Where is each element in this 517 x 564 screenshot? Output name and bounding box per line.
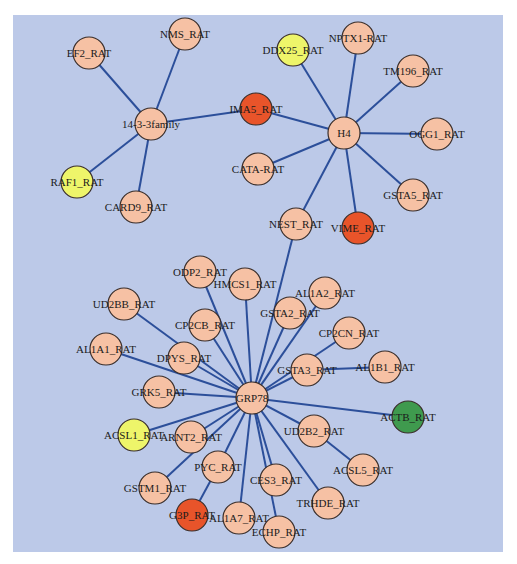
- node-label: ACSL1_RAT: [104, 429, 164, 441]
- node-label: ACTB_RAT: [380, 411, 436, 423]
- node-label: 14-3-3family: [122, 118, 181, 130]
- node-label: GSTA5_RAT: [383, 189, 443, 201]
- node-PYC_RAT[interactable]: PYC_RAT: [194, 451, 242, 483]
- node-label: PYC_RAT: [194, 461, 242, 473]
- node-VIME_RAT[interactable]: VIME_RAT: [331, 212, 386, 244]
- node-label: UD2BB_RAT: [93, 298, 156, 310]
- node-14-3-3family[interactable]: 14-3-3family: [122, 108, 181, 140]
- node-label: NPTX1-RAT: [329, 32, 388, 44]
- node-NPTX1-RAT[interactable]: NPTX1-RAT: [329, 22, 388, 54]
- node-label: ACSL5_RAT: [333, 464, 393, 476]
- node-CES3_RAT[interactable]: CES3_RAT: [250, 464, 302, 496]
- node-CATA-RAT[interactable]: CATA-RAT: [232, 153, 285, 185]
- node-label: OGG1_RAT: [409, 128, 465, 140]
- node-label: AL1A7_RAT: [209, 512, 269, 524]
- node-ACSL1_RAT[interactable]: ACSL1_RAT: [104, 419, 164, 451]
- node-layer: 14-3-3familyEF2_RATNMS_RATRAF1_RATCARD9_…: [50, 18, 465, 548]
- node-label: AL1B1_RAT: [355, 361, 415, 373]
- node-label: ECHP_RAT: [252, 526, 307, 538]
- node-label: ODP2_RAT: [173, 266, 227, 278]
- node-IMA5_RAT[interactable]: IMA5_RAT: [229, 93, 282, 125]
- node-label: CATA-RAT: [232, 163, 285, 175]
- node-UD2BB_RAT[interactable]: UD2BB_RAT: [93, 288, 156, 320]
- node-NEST_RAT[interactable]: NEST_RAT: [269, 208, 323, 240]
- node-OGG1_RAT[interactable]: OGG1_RAT: [409, 118, 465, 150]
- node-CARD9_RAT[interactable]: CARD9_RAT: [105, 191, 168, 223]
- node-label: CARD9_RAT: [105, 201, 168, 213]
- node-label: GRP78: [236, 392, 269, 404]
- node-label: AL1A2_RAT: [295, 287, 355, 299]
- node-label: HMCS1_RAT: [214, 278, 277, 290]
- node-label: IMA5_RAT: [229, 103, 282, 115]
- node-label: CP2CB_RAT: [175, 319, 235, 331]
- node-label: NEST_RAT: [269, 218, 323, 230]
- node-label: GSTA2_RAT: [260, 307, 320, 319]
- node-label: AL1A1_RAT: [76, 343, 136, 355]
- node-label: RAF1_RAT: [50, 176, 103, 188]
- node-GSTA5_RAT[interactable]: GSTA5_RAT: [383, 179, 443, 211]
- node-label: DPYS_RAT: [157, 352, 212, 364]
- node-TM196_RAT[interactable]: TM196_RAT: [383, 55, 443, 87]
- node-GRK5_RAT[interactable]: GRK5_RAT: [131, 376, 186, 408]
- node-label: GRK5_RAT: [131, 386, 186, 398]
- node-CP2CN_RAT[interactable]: CP2CN_RAT: [319, 317, 380, 349]
- node-label: CP2CN_RAT: [319, 327, 380, 339]
- node-label: GSTA3_RAT: [277, 364, 337, 376]
- node-H4[interactable]: H4: [328, 117, 360, 149]
- node-label: NMS_RAT: [160, 28, 210, 40]
- node-AL1A2_RAT[interactable]: AL1A2_RAT: [295, 277, 355, 309]
- network-graph: 14-3-3familyEF2_RATNMS_RATRAF1_RATCARD9_…: [0, 0, 517, 564]
- node-NMS_RAT[interactable]: NMS_RAT: [160, 18, 210, 50]
- node-label: GSTM1_RAT: [124, 482, 187, 494]
- node-label: ARNT2_RAT: [160, 431, 222, 443]
- node-label: VIME_RAT: [331, 222, 386, 234]
- node-label: H4: [337, 127, 351, 139]
- node-GRP78[interactable]: GRP78: [236, 382, 269, 414]
- node-label: TM196_RAT: [383, 65, 443, 77]
- node-ACSL5_RAT[interactable]: ACSL5_RAT: [333, 454, 393, 486]
- node-label: UD2B2_RAT: [284, 425, 345, 437]
- node-DDX25_RAT[interactable]: DDX25_RAT: [262, 34, 323, 66]
- node-GSTM1_RAT[interactable]: GSTM1_RAT: [124, 472, 187, 504]
- node-RAF1_RAT[interactable]: RAF1_RAT: [50, 166, 103, 198]
- node-label: TRHDE_RAT: [297, 497, 360, 509]
- node-AL1B1_RAT[interactable]: AL1B1_RAT: [355, 351, 415, 383]
- node-ACTB_RAT[interactable]: ACTB_RAT: [380, 401, 436, 433]
- node-label: EF2_RAT: [67, 47, 112, 59]
- node-AL1A1_RAT[interactable]: AL1A1_RAT: [76, 333, 136, 365]
- edge-GRP78-HMCS1_RAT: [245, 284, 252, 398]
- node-EF2_RAT[interactable]: EF2_RAT: [67, 37, 112, 69]
- node-TRHDE_RAT[interactable]: TRHDE_RAT: [297, 487, 360, 519]
- node-label: DDX25_RAT: [262, 44, 323, 56]
- node-label: CES3_RAT: [250, 474, 302, 486]
- node-ARNT2_RAT[interactable]: ARNT2_RAT: [160, 421, 222, 453]
- edge-GRP78-AL1A7_RAT: [239, 398, 252, 518]
